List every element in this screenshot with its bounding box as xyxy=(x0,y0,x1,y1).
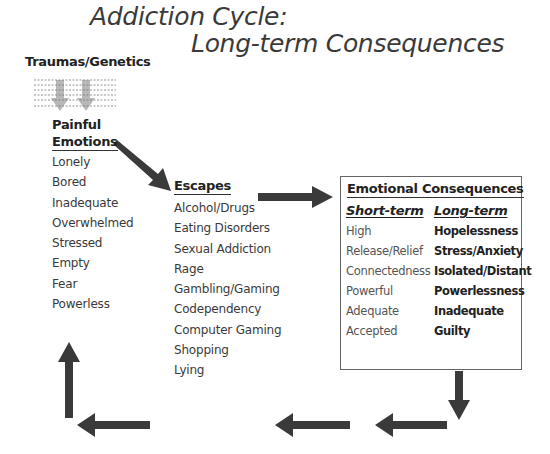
list-item: Powerless xyxy=(52,294,134,314)
arrow-up-icon xyxy=(58,342,80,418)
title-line-1: Addiction Cycle: xyxy=(90,2,287,31)
arrow-left-3-icon xyxy=(77,413,150,437)
painful-emotions-list: Lonely Bored Inadequate Overwhelmed Stre… xyxy=(52,152,134,314)
emotional-consequences-heading: Emotional Consequences xyxy=(347,181,524,198)
arrow-left-2-icon xyxy=(275,413,350,437)
list-item: Lying xyxy=(174,360,281,380)
list-item: Guilty xyxy=(434,321,531,341)
title-line-2: Long-term Consequences xyxy=(191,29,504,58)
list-item: Rage xyxy=(174,259,281,279)
long-term-heading: Long-term xyxy=(434,203,507,218)
long-term-list: Hopelessness Stress/Anxiety Isolated/Dis… xyxy=(434,221,531,341)
list-item: Powerful xyxy=(346,281,430,301)
list-item: Adequate xyxy=(346,301,430,321)
list-item: Stress/Anxiety xyxy=(434,241,531,261)
list-item: Alcohol/Drugs xyxy=(174,198,281,218)
list-item: Accepted xyxy=(346,321,430,341)
painful-emotions-heading-1: Painful xyxy=(52,117,101,132)
list-item: Hopelessness xyxy=(434,221,531,241)
list-item: Eating Disorders xyxy=(174,218,281,238)
list-item: Release/Relief xyxy=(346,241,430,261)
list-item: Empty xyxy=(52,253,134,273)
source-label: Traumas/Genetics xyxy=(25,54,151,69)
arrow-left-1-icon xyxy=(375,413,447,437)
list-item: Codependency xyxy=(174,299,281,319)
list-item: Bored xyxy=(52,172,134,192)
list-item: Fear xyxy=(52,274,134,294)
list-item: High xyxy=(346,221,430,241)
short-term-heading: Short-term xyxy=(346,203,424,218)
list-item: Gambling/Gaming xyxy=(174,279,281,299)
source-down-arrows-icon xyxy=(34,80,116,111)
list-item: Sexual Addiction xyxy=(174,239,281,259)
list-item: Lonely xyxy=(52,152,134,172)
list-item: Inadequate xyxy=(434,301,531,321)
escapes-heading: Escapes xyxy=(174,178,231,195)
short-term-list: High Release/Relief Connectedness Powerf… xyxy=(346,221,430,341)
list-item: Connectedness xyxy=(346,261,430,281)
list-item: Powerlessness xyxy=(434,281,531,301)
list-item: Isolated/Distant xyxy=(434,261,531,281)
list-item: Shopping xyxy=(174,340,281,360)
list-item: Overwhelmed xyxy=(52,213,134,233)
escapes-list: Alcohol/Drugs Eating Disorders Sexual Ad… xyxy=(174,198,281,381)
list-item: Stressed xyxy=(52,233,134,253)
list-item: Computer Gaming xyxy=(174,320,281,340)
list-item: Inadequate xyxy=(52,193,134,213)
arrow-down-icon xyxy=(448,371,470,420)
painful-emotions-heading-2: Emotions xyxy=(52,134,118,151)
